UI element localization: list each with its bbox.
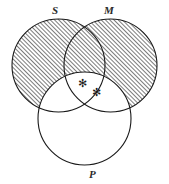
venn-diagram-canvas <box>0 0 169 184</box>
set-label-p: P <box>89 169 96 180</box>
set-label-s: S <box>52 5 58 16</box>
set-label-m: M <box>104 5 114 16</box>
venn-diagram: S M P ✻ ✻ <box>0 0 169 184</box>
asterisk-mark-2: ✻ <box>92 87 101 98</box>
asterisk-mark-1: ✻ <box>78 78 87 89</box>
